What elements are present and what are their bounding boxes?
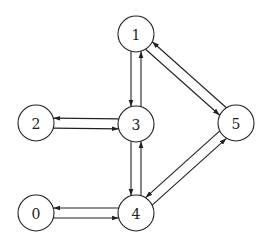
node-label: 5 [232, 116, 241, 132]
node-label: 0 [32, 206, 41, 222]
node-1: 1 [118, 16, 154, 52]
node-label: 1 [132, 27, 141, 43]
node-label: 4 [132, 206, 141, 222]
edge-2-to-3 [53, 128, 118, 129]
node-label: 3 [132, 117, 141, 133]
node-4: 4 [118, 195, 154, 231]
node-0: 0 [18, 195, 54, 231]
edge-5-to-4 [146, 131, 220, 198]
node-label: 2 [32, 116, 41, 132]
edge-4-to-5 [152, 138, 226, 205]
node-5: 5 [218, 105, 254, 141]
node-3: 3 [118, 106, 154, 142]
node-2: 2 [18, 105, 54, 141]
edge-5-to-1 [152, 42, 226, 108]
edge-1-to-5 [146, 49, 220, 115]
edge-3-to-2 [53, 118, 118, 119]
directed-graph: 012345 [0, 0, 271, 244]
